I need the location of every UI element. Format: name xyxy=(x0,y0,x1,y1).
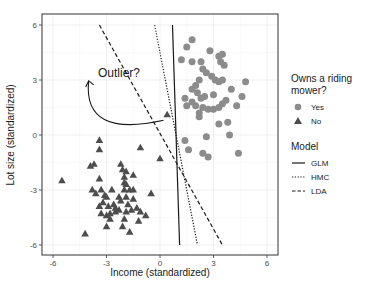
circle-icon xyxy=(295,104,302,111)
point-yes xyxy=(178,56,185,63)
legend-label-yes: Yes xyxy=(311,103,324,112)
legend-title-owns: Owns a riding xyxy=(291,73,352,84)
point-yes xyxy=(233,102,240,109)
legend-label-glm: GLM xyxy=(311,159,329,168)
y-tick-label: 0 xyxy=(33,131,38,140)
point-yes xyxy=(196,110,203,117)
point-yes xyxy=(189,58,196,65)
y-axis-title: Lot size (standardized) xyxy=(5,84,16,185)
point-yes xyxy=(235,150,242,157)
point-yes xyxy=(205,153,212,160)
legend-label-lda: LDA xyxy=(311,187,327,196)
legend: Owns a riding mower? Yes No Model GLM HM… xyxy=(291,73,352,196)
point-yes xyxy=(219,51,226,58)
x-tick-label: -6 xyxy=(49,259,57,268)
point-yes xyxy=(203,133,210,140)
point-yes xyxy=(224,119,231,126)
point-yes xyxy=(198,58,205,65)
outlier-label: Outlier? xyxy=(98,66,140,80)
point-yes xyxy=(181,95,188,102)
y-tick-label: 6 xyxy=(33,21,38,30)
point-yes xyxy=(192,82,199,89)
legend-label-no: No xyxy=(311,117,322,126)
point-yes xyxy=(189,99,196,106)
point-yes xyxy=(219,77,226,84)
point-yes xyxy=(222,97,229,104)
x-tick-label: 6 xyxy=(265,259,270,268)
legend-title-model: Model xyxy=(291,141,318,152)
point-yes xyxy=(181,137,188,144)
y-tick-label: -6 xyxy=(30,241,38,250)
point-yes xyxy=(226,132,233,139)
scatter-chart: Outlier? -6-3036-6-3036 Income (standard… xyxy=(0,0,367,291)
point-yes xyxy=(239,93,246,100)
point-yes xyxy=(215,121,222,128)
point-yes xyxy=(210,91,217,98)
x-axis-title: Income (standardized) xyxy=(110,267,210,278)
x-tick-label: 3 xyxy=(211,259,216,268)
point-yes xyxy=(201,93,208,100)
y-tick-label: 3 xyxy=(33,76,38,85)
triangle-icon xyxy=(294,117,302,124)
point-yes xyxy=(185,146,192,153)
y-tick-label: -3 xyxy=(30,186,38,195)
point-yes xyxy=(221,62,228,69)
point-yes xyxy=(228,86,235,93)
point-yes xyxy=(206,47,213,54)
legend-title-mower: mower? xyxy=(291,85,327,96)
point-yes xyxy=(189,36,196,43)
legend-label-hmc: HMC xyxy=(311,173,329,182)
point-yes xyxy=(242,78,249,85)
point-yes xyxy=(183,44,190,51)
